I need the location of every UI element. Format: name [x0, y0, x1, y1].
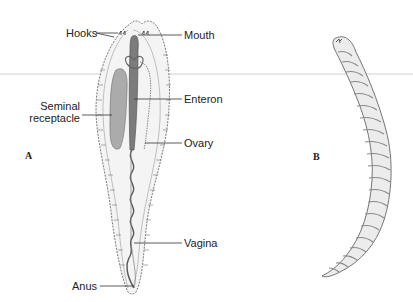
specimen-b [322, 37, 391, 277]
label-seminal-line2: receptacle [25, 112, 80, 124]
panel-label-b: B [313, 151, 320, 162]
label-seminal-line1: Seminal [25, 100, 80, 112]
label-enteron: Enteron [184, 93, 223, 105]
label-mouth: Mouth [184, 29, 215, 41]
figure-canvas: Hooks Mouth Enteron Seminal receptacle O… [0, 0, 413, 302]
label-anus: Anus [72, 280, 97, 292]
panel-label-a: A [25, 150, 32, 161]
label-seminal-receptacle: Seminal receptacle [25, 100, 80, 124]
label-hooks: Hooks [66, 27, 97, 39]
specimen-a [82, 21, 182, 294]
label-ovary: Ovary [184, 137, 213, 149]
label-vagina: Vagina [184, 237, 217, 249]
